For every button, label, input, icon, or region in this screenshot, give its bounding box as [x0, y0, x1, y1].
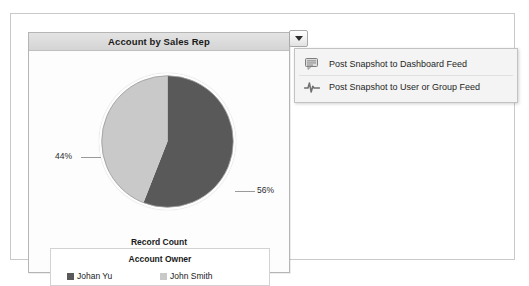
- legend-title: Account Owner: [51, 254, 269, 264]
- pie-svg: [99, 73, 236, 210]
- pie-graphic: [99, 73, 236, 210]
- chevron-down-icon: [295, 36, 303, 41]
- panel-body: 44% 56% Record Count Account Owner Johan…: [29, 51, 289, 272]
- legend-swatch-icon: [160, 273, 167, 280]
- panel-dropdown-menu[interactable]: Post Snapshot to Dashboard Feed Post Sna…: [294, 48, 518, 103]
- menu-item-post-snapshot-dashboard-feed[interactable]: Post Snapshot to Dashboard Feed: [295, 53, 517, 75]
- legend-item-label: Johan Yu: [77, 271, 112, 281]
- panel-header: Account by Sales Rep: [29, 33, 289, 51]
- panel-title: Account by Sales Rep: [108, 36, 210, 47]
- dashboard-component-panel: Account by Sales Rep 44% 56%: [28, 32, 290, 273]
- menu-item-label: Post Snapshot to Dashboard Feed: [329, 59, 467, 69]
- legend-item-johan-yu[interactable]: Johan Yu: [67, 271, 160, 281]
- speech-bubble-icon: [303, 56, 321, 72]
- chart-value-axis-title: Record Count: [29, 237, 289, 247]
- menu-item-post-snapshot-user-group-feed[interactable]: Post Snapshot to User or Group Feed: [295, 76, 517, 98]
- leader-line-left: [81, 157, 101, 158]
- leader-line-right: [235, 191, 255, 192]
- legend-item-label: John Smith: [170, 271, 213, 281]
- panel-menu-toggle-button[interactable]: [289, 30, 308, 47]
- legend-items: Johan Yu John Smith: [51, 271, 269, 281]
- legend-item-john-smith[interactable]: John Smith: [160, 271, 253, 281]
- pulse-icon: [303, 79, 321, 95]
- menu-item-label: Post Snapshot to User or Group Feed: [329, 82, 480, 92]
- pie-chart: 44% 56%: [29, 51, 289, 233]
- chart-legend: Account Owner Johan Yu John Smith: [50, 248, 270, 286]
- dashboard-container: Account by Sales Rep 44% 56%: [10, 13, 515, 260]
- pie-label-right: 56%: [257, 185, 274, 195]
- pie-label-left: 44%: [55, 151, 72, 161]
- legend-swatch-icon: [67, 273, 74, 280]
